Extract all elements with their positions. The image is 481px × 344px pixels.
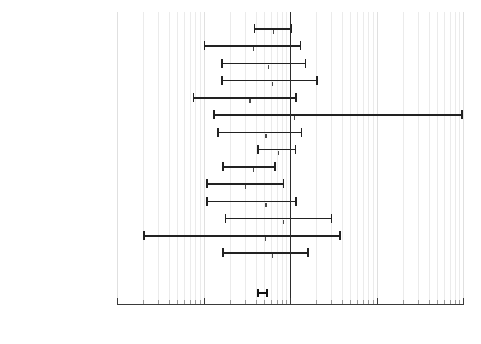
ci-cap-low	[221, 76, 223, 85]
ci-cap-high	[461, 110, 463, 119]
summary-cap-high	[266, 289, 268, 297]
reference-line-or-1	[290, 12, 291, 304]
ci-cap-high	[295, 197, 297, 206]
confidence-interval-bar	[225, 218, 333, 220]
gridline-major	[463, 12, 464, 304]
point-estimate-marker	[249, 99, 250, 103]
point-estimate-marker	[265, 134, 266, 138]
point-estimate-marker	[283, 220, 284, 224]
ci-cap-low	[143, 231, 145, 240]
gridline-minor	[373, 12, 374, 304]
gridline-minor	[184, 12, 185, 304]
point-estimate-marker	[268, 65, 269, 69]
gridline-minor	[177, 12, 178, 304]
x-axis-minor-tick	[230, 300, 231, 304]
gridline-minor	[342, 12, 343, 304]
x-axis-minor-tick	[342, 300, 343, 304]
ci-cap-low	[213, 110, 215, 119]
x-axis-tick	[377, 298, 378, 305]
ci-cap-low	[221, 59, 223, 68]
gridline-minor	[368, 12, 369, 304]
gridline-minor	[350, 12, 351, 304]
x-axis-minor-tick	[169, 300, 170, 304]
x-axis-minor-tick	[403, 300, 404, 304]
x-axis-minor-tick	[286, 300, 287, 304]
gridline-minor	[169, 12, 170, 304]
x-axis-minor-tick	[184, 300, 185, 304]
gridline-minor	[195, 12, 196, 304]
point-estimate-marker	[273, 30, 274, 34]
gridline-minor	[363, 12, 364, 304]
point-estimate-marker	[253, 168, 254, 172]
x-axis-minor-tick	[429, 300, 430, 304]
ci-cap-low	[254, 24, 256, 33]
x-axis-minor-tick	[177, 300, 178, 304]
ci-cap-high	[305, 59, 307, 68]
gridline-minor	[331, 12, 332, 304]
ci-cap-low	[217, 128, 219, 137]
point-estimate-marker	[278, 151, 279, 155]
x-axis-minor-tick	[195, 300, 196, 304]
x-axis-minor-tick	[450, 300, 451, 304]
ci-cap-low	[222, 248, 224, 257]
gridline-minor	[245, 12, 246, 304]
x-axis-minor-tick	[277, 300, 278, 304]
gridline-minor	[256, 12, 257, 304]
point-estimate-marker	[245, 185, 246, 189]
x-axis-minor-tick	[437, 300, 438, 304]
x-axis-minor-tick	[200, 300, 201, 304]
point-estimate-marker	[294, 116, 295, 120]
ci-cap-high	[307, 248, 309, 257]
ci-cap-low	[257, 145, 259, 154]
ci-cap-high	[339, 231, 341, 240]
ci-cap-low	[222, 162, 224, 171]
x-axis-minor-tick	[256, 300, 257, 304]
ci-cap-high	[301, 128, 303, 137]
gridline-major	[377, 12, 378, 304]
ci-cap-high	[316, 76, 318, 85]
confidence-interval-bar	[221, 63, 306, 65]
gridline-minor	[190, 12, 191, 304]
ci-cap-high	[283, 179, 285, 188]
gridline-minor	[282, 12, 283, 304]
gridline-minor	[357, 12, 358, 304]
x-axis-tick	[290, 298, 291, 305]
gridline-minor	[143, 12, 144, 304]
gridline-major	[117, 12, 118, 304]
ci-cap-low	[206, 197, 208, 206]
gridline-minor	[455, 12, 456, 304]
x-axis-minor-tick	[264, 300, 265, 304]
ci-cap-low	[193, 93, 195, 102]
gridline-minor	[403, 12, 404, 304]
confidence-interval-bar	[222, 252, 309, 254]
point-estimate-marker	[272, 82, 273, 86]
x-axis-minor-tick	[245, 300, 246, 304]
gridline-minor	[277, 12, 278, 304]
forest-plot	[0, 0, 481, 344]
x-axis-minor-tick	[271, 300, 272, 304]
ci-cap-high	[274, 162, 276, 171]
ci-cap-high	[331, 214, 333, 223]
ci-cap-high	[295, 145, 297, 154]
point-estimate-marker	[253, 47, 254, 51]
summary-cap-low	[257, 289, 259, 297]
gridline-minor	[450, 12, 451, 304]
gridline-major	[204, 12, 205, 304]
x-axis-minor-tick	[158, 300, 159, 304]
gridline-minor	[459, 12, 460, 304]
x-axis-tick	[204, 298, 205, 305]
gridline-minor	[437, 12, 438, 304]
x-axis-minor-tick	[368, 300, 369, 304]
ci-cap-high	[300, 41, 302, 50]
confidence-interval-bar	[206, 201, 296, 203]
confidence-interval-bar	[193, 97, 297, 99]
ci-cap-low	[225, 214, 227, 223]
gridline-minor	[230, 12, 231, 304]
x-axis-minor-tick	[357, 300, 358, 304]
ci-cap-low	[206, 179, 208, 188]
x-axis-tick	[117, 298, 118, 305]
gridline-minor	[271, 12, 272, 304]
confidence-interval-bar	[213, 114, 463, 116]
ci-cap-low	[204, 41, 206, 50]
gridline-minor	[200, 12, 201, 304]
